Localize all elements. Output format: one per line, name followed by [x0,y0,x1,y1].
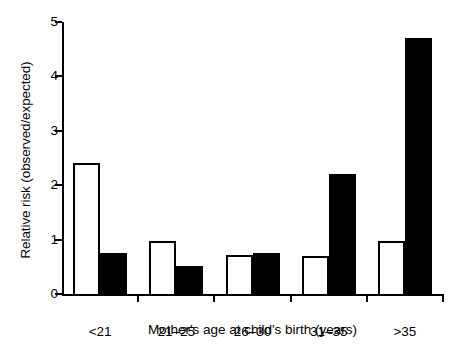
y-axis-spine [62,22,64,296]
y-tick-label: 5 [38,13,58,31]
bar-open-<21 [73,163,100,294]
x-axis-spine [62,294,443,296]
plot-area: 012345 <2121–2526–3031–35>35 [62,22,443,296]
x-tick-mark [213,294,215,302]
bar-open-31–35 [302,256,329,294]
x-tick-mark [442,294,444,302]
y-tick-label: 3 [38,122,58,140]
bar-filled-31–35 [329,174,356,294]
x-tick-mark [366,294,368,302]
y-axis-title: Relative risk (observed/expected) [14,10,36,310]
bar-filled->35 [405,38,432,294]
bar-filled-<21 [100,253,127,294]
y-tick-label: 4 [38,67,58,85]
x-tick-mark [290,294,292,302]
x-tick-mark [137,294,139,302]
bar-chart-figure: Relative risk (observed/expected) 012345… [0,0,467,348]
bar-open-26–30 [226,255,253,294]
bar-filled-21–25 [176,266,203,294]
y-tick-label: 0 [38,285,58,303]
bar-open->35 [378,241,405,294]
bar-open-21–25 [149,241,176,294]
y-tick-label: 2 [38,176,58,194]
y-tick-label: 1 [38,231,58,249]
x-axis-title: Mother's age at child's birth (years) [62,322,443,337]
bar-filled-26–30 [253,253,280,294]
